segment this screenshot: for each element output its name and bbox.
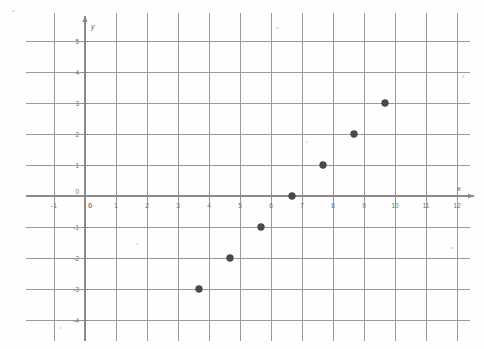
coordinate-plane-figure: -1 0 1 2 3 4 5 6 7 8 9 10 11 12 5 4 3 2 … (0, 0, 484, 349)
y-tick-label: 0 (75, 188, 79, 195)
data-point[interactable] (382, 100, 389, 107)
x-tick-label: 1 (114, 202, 118, 209)
data-point[interactable] (258, 224, 265, 231)
x-axis (26, 193, 474, 198)
x-tick-label: 9 (362, 202, 366, 209)
data-point[interactable] (227, 255, 234, 262)
data-point[interactable] (351, 131, 358, 138)
x-axis-label: x (456, 185, 461, 192)
x-tick-label: 3 (176, 202, 180, 209)
vertical-gridlines (54, 13, 457, 341)
x-tick-label: -1 (51, 202, 57, 209)
x-tick-label: 7 (300, 202, 304, 209)
x-tick-label: 11 (423, 202, 430, 209)
paper-specks (12, 10, 464, 329)
y-tick-label: -3 (73, 286, 79, 293)
y-axis-tick-labels: 5 4 3 2 1 0 -1 -2 -3 -4 (73, 38, 79, 324)
y-axis (82, 16, 87, 341)
x-tick-label: 8 (331, 202, 335, 209)
y-tick-label: -1 (73, 224, 79, 231)
y-tick-label: -2 (73, 255, 79, 262)
graph-screenshot: -1 0 1 2 3 4 5 6 7 8 9 10 11 12 5 4 3 2 … (0, 0, 484, 349)
x-tick-label: 6 (269, 202, 273, 209)
y-tick-label: 3 (75, 100, 79, 107)
x-tick-label: 5 (238, 202, 242, 209)
x-tick-label: 12 (453, 202, 461, 209)
y-tick-label: 4 (75, 69, 79, 76)
y-tick-label: 2 (75, 131, 79, 138)
y-axis-label: y (90, 23, 95, 31)
y-tick-label: 1 (75, 162, 79, 169)
x-tick-label: 4 (207, 202, 211, 209)
y-tick-label: -4 (73, 317, 79, 324)
x-tick-label: 10 (391, 202, 399, 209)
y-tick-label: 5 (75, 38, 79, 45)
x-axis-tick-labels: -1 0 1 2 3 4 5 6 7 8 9 10 11 12 (51, 202, 461, 209)
horizontal-gridlines (26, 41, 470, 320)
origin-label: 0 (88, 202, 92, 209)
data-point[interactable] (320, 162, 327, 169)
data-point[interactable] (196, 286, 203, 293)
x-tick-label: 2 (145, 202, 149, 209)
data-point[interactable] (289, 193, 296, 200)
